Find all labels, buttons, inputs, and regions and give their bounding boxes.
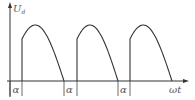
x-axis-arrow — [183, 79, 189, 83]
waveform-pulse-2 — [77, 25, 118, 81]
waveform-pulse-1 — [22, 25, 64, 81]
waveform-pulse-3 — [130, 25, 172, 81]
alpha-label-1: α — [13, 84, 20, 95]
alpha-label-2: α — [66, 84, 73, 95]
waveform-diagram: Ud α α α ωt — [0, 0, 195, 100]
y-axis-label: Ud — [13, 3, 25, 15]
y-axis-arrow — [8, 2, 12, 8]
x-axis-label: ωt — [169, 84, 182, 95]
alpha-label-3: α — [120, 84, 127, 95]
